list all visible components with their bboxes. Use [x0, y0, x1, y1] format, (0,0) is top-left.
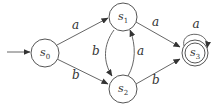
edge-label-s1-s3: a — [152, 15, 159, 29]
edge-s0-s1 — [57, 18, 108, 45]
edge-s2-s1 — [128, 30, 134, 76]
edge-label-s0-s2: b — [72, 68, 80, 82]
automaton-diagram: a b b a a b a s0 s1 s2 s3 — [0, 0, 218, 106]
state-s2: s2 — [109, 75, 137, 103]
state-s1: s1 — [109, 3, 137, 31]
edge-s1-s2 — [105, 30, 114, 76]
edge-label-s3-s3: a — [192, 17, 199, 31]
edge-label-s1-s2: b — [92, 44, 100, 58]
edge-label-s2-s1: a — [137, 44, 144, 58]
edge-label-s2-s3: b — [152, 73, 160, 87]
edge-label-s0-s1: a — [72, 18, 79, 32]
state-s0: s0 — [31, 39, 59, 67]
state-s3-accepting: s3 — [182, 40, 208, 66]
edge-s0-s2 — [57, 59, 108, 84]
